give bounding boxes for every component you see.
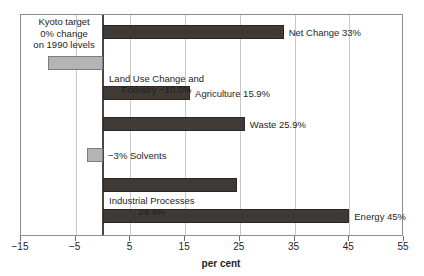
bar-label-agriculture: Agriculture 15.9% xyxy=(195,88,270,99)
x-axis-title-text: per cent xyxy=(202,258,241,269)
bar-label-line: Land Use Change and xyxy=(109,73,204,84)
kyoto-line-3: on 1990 levels xyxy=(22,39,106,51)
bar-label-line: Agriculture 15.9% xyxy=(195,88,270,99)
bar-label-energy: Energy 45% xyxy=(354,211,406,222)
bar-waste xyxy=(103,117,245,131)
tick-label--15: −15 xyxy=(12,241,29,252)
bar-label-line: Energy 45% xyxy=(354,211,406,222)
bar-label-industrial-processes: Industrial Processes24.4% xyxy=(109,195,195,217)
bar-label-solvents: −3% Solvents xyxy=(108,150,166,161)
tick-label-45: 45 xyxy=(343,241,354,252)
bar-net-change xyxy=(103,25,284,39)
tick-label-55: 55 xyxy=(397,241,408,252)
bar-land-use-change-and-forestry xyxy=(48,56,103,70)
kyoto-line-2: 0% change xyxy=(22,28,106,40)
tick-label-25: 25 xyxy=(233,241,244,252)
bar-solvents xyxy=(87,148,103,162)
bar-label-line: 24.4% xyxy=(109,206,195,217)
bar-industrial-processes xyxy=(103,178,237,192)
tick-label-15: 15 xyxy=(179,241,190,252)
bar-label-waste: Waste 25.9% xyxy=(250,119,306,130)
x-axis-title: per cent xyxy=(0,258,424,269)
kyoto-target-annotation: Kyoto target 0% change on 1990 levels xyxy=(22,16,106,51)
bar-label-line: Industrial Processes xyxy=(109,195,195,206)
kyoto-line-1: Kyoto target xyxy=(22,16,106,28)
bar-label-line: Waste 25.9% xyxy=(250,119,306,130)
bar-label-line: Forestry −10.0% xyxy=(109,84,204,95)
bar-label-line: Net Change 33% xyxy=(289,27,361,38)
tick-label-5: 5 xyxy=(127,241,133,252)
chart-container: Net Change 33%Land Use Change andForestr… xyxy=(0,0,424,276)
bar-label-line: −3% Solvents xyxy=(108,150,166,161)
bar-label-land-use-change-and-forestry: Land Use Change andForestry −10.0% xyxy=(109,73,204,95)
gridline-45 xyxy=(349,15,350,235)
bar-label-net-change: Net Change 33% xyxy=(289,27,361,38)
tick-label-35: 35 xyxy=(288,241,299,252)
tick-label--5: −5 xyxy=(69,241,80,252)
x-axis-ticks: −15−551525354555 xyxy=(20,236,403,250)
